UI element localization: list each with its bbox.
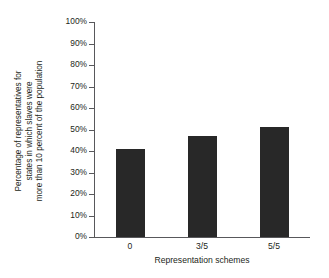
plot-area: 0%10%20%30%40%50%60%70%80%90%100% 03/55/… bbox=[94, 22, 310, 237]
y-axis-tick-mark bbox=[89, 65, 94, 66]
x-axis-line bbox=[94, 237, 310, 238]
y-axis-tick-label: 40% bbox=[70, 145, 87, 155]
y-axis-tick-mark bbox=[89, 151, 94, 152]
y-axis-tick-mark bbox=[89, 130, 94, 131]
y-axis-tick-mark bbox=[89, 173, 94, 174]
y-axis-tick-mark bbox=[89, 108, 94, 109]
y-axis-tick-mark bbox=[89, 87, 94, 88]
x-axis-tick-label-0: 0 bbox=[100, 241, 160, 251]
bar-chart-figure: Percentage of representatives for states… bbox=[0, 0, 329, 278]
bar-0 bbox=[116, 149, 145, 237]
y-axis-tick-mark bbox=[89, 194, 94, 195]
y-axis-tick-label: 0% bbox=[75, 231, 87, 241]
y-axis-tick-mark bbox=[89, 237, 94, 238]
y-axis-title-line-1: Percentage of representatives for bbox=[14, 70, 25, 191]
x-axis-tick-label-1: 3/5 bbox=[172, 241, 232, 251]
y-axis-tick-label: 10% bbox=[70, 210, 87, 220]
y-axis-title-line-3: more than 10 percent of the population bbox=[35, 61, 46, 202]
y-axis-title-line-2: states in which slaves were bbox=[24, 81, 35, 180]
y-axis-tick-mark bbox=[89, 44, 94, 45]
x-axis-tick-label-2: 5/5 bbox=[244, 241, 304, 251]
bar-5/5 bbox=[260, 127, 289, 237]
y-axis-tick-label: 100% bbox=[66, 16, 87, 26]
x-axis-title: Representation schemes bbox=[94, 255, 310, 265]
y-axis-tick-label: 90% bbox=[70, 38, 87, 48]
y-axis-tick-label: 70% bbox=[70, 81, 87, 91]
y-axis-tick-mark bbox=[89, 216, 94, 217]
y-axis-tick-mark bbox=[89, 22, 94, 23]
y-axis-tick-label: 20% bbox=[70, 188, 87, 198]
y-axis-tick-label: 80% bbox=[70, 59, 87, 69]
y-axis-tick-label: 50% bbox=[70, 124, 87, 134]
bar-3/5 bbox=[188, 136, 217, 237]
y-axis-tick-label: 30% bbox=[70, 167, 87, 177]
y-axis-line bbox=[94, 22, 95, 237]
y-axis-title: Percentage of representatives for states… bbox=[7, 24, 53, 239]
y-axis-tick-label: 60% bbox=[70, 102, 87, 112]
